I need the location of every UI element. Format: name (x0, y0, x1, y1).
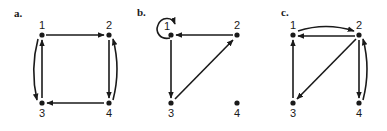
node-2 (234, 32, 239, 37)
panel-label: c. (281, 6, 289, 18)
node-4 (234, 100, 239, 105)
node-label: 2 (356, 19, 362, 31)
node-label: 1 (290, 19, 296, 31)
panel-b: b. 1 2 3 4 (137, 6, 240, 119)
node-1 (39, 32, 44, 37)
edge-4-2 (113, 39, 117, 100)
panel-label: a. (14, 7, 23, 19)
node-4 (106, 100, 111, 105)
panel-label: b. (137, 6, 146, 18)
node-1 (290, 32, 295, 37)
node-label: 4 (106, 107, 112, 119)
node-1 (168, 32, 173, 37)
panel-a: a. 1 2 3 4 (14, 7, 117, 119)
edge-1-2 (298, 27, 354, 32)
node-label: 4 (234, 107, 240, 119)
node-3 (168, 100, 173, 105)
node-label: 1 (39, 19, 45, 31)
node-3 (39, 100, 44, 105)
node-3 (290, 100, 295, 105)
directed-graphs-figure: a. 1 2 3 4 b. 1 2 3 4 c. (0, 0, 387, 131)
node-4 (356, 100, 361, 105)
node-label: 3 (39, 107, 45, 119)
node-label: 3 (290, 107, 296, 119)
node-label: 2 (106, 19, 112, 31)
node-label: 3 (168, 107, 174, 119)
edge-1-3 (34, 39, 38, 100)
panel-c: c. 1 2 3 4 (281, 6, 367, 119)
node-label: 2 (234, 19, 240, 31)
edge-4-2 (363, 39, 367, 100)
edge-2-3 (297, 39, 356, 99)
node-2 (356, 32, 361, 37)
node-label: 1 (164, 20, 170, 32)
node-2 (106, 32, 111, 37)
node-label: 4 (356, 107, 362, 119)
edge-3-2 (175, 40, 233, 99)
